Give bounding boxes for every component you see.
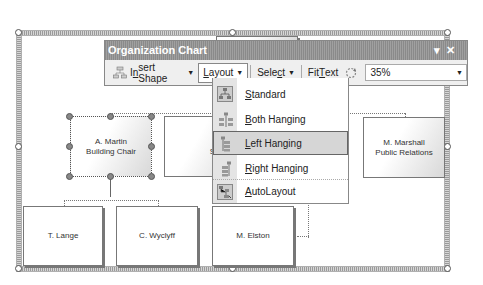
menu-item-both-hanging[interactable]: Both Hanging (213, 107, 348, 131)
both-hanging-icon (217, 111, 233, 127)
insert-shape-button[interactable]: Insert Shape ▼ (109, 63, 198, 83)
menu-accel: S (245, 89, 252, 100)
selection-handle[interactable] (107, 113, 114, 120)
zoom-select[interactable]: 35% ▼ (365, 64, 467, 81)
resize-handle-middle-left[interactable] (15, 143, 22, 150)
menu-label: ight Hanging (252, 163, 308, 174)
resize-handle-top-left[interactable] (15, 29, 22, 36)
resize-handle-middle-right[interactable] (444, 143, 451, 150)
triangle-down-icon[interactable]: ▾ (434, 44, 446, 56)
connector-line (110, 177, 111, 197)
label-part: Fit (308, 67, 319, 78)
connector-line (64, 200, 159, 201)
org-shape-icon (113, 66, 127, 80)
chevron-down-icon: ▼ (288, 69, 295, 76)
selection-handle[interactable] (148, 173, 155, 180)
selection-handle[interactable] (148, 113, 155, 120)
menu-item-standard[interactable]: Standard (213, 82, 348, 106)
resize-handle-top-right[interactable] (444, 29, 451, 36)
node-name: M. Elston (236, 231, 269, 241)
label-part: ext (325, 67, 338, 78)
selection-handle[interactable] (107, 173, 114, 180)
menu-item-autolayout[interactable]: AutoLayout (213, 179, 348, 203)
resize-handle-bottom-left[interactable] (15, 265, 22, 272)
toolbar-title: Organization Chart (108, 44, 207, 56)
menu-accel: B (245, 114, 252, 125)
layout-dropdown-menu: Standard Both Hanging Left Hanging Right… (212, 78, 349, 204)
org-box-t-lange[interactable]: T. Lange (23, 206, 103, 266)
canvas-border-left[interactable] (16, 30, 22, 272)
node-title: Public Relations (375, 148, 432, 158)
resize-handle-top-center[interactable] (229, 29, 236, 36)
menu-label: eft Hanging (251, 138, 302, 149)
menu-item-left-hanging[interactable]: Left Hanging (213, 131, 348, 155)
left-hanging-icon (217, 135, 233, 151)
selection-handle[interactable] (148, 143, 155, 150)
right-hanging-icon (217, 160, 233, 176)
resize-handle-bottom-center[interactable] (229, 265, 236, 272)
connector-line (308, 198, 309, 238)
menu-label: oth Hanging (252, 114, 306, 125)
close-icon[interactable]: ✕ (446, 44, 461, 56)
chevron-down-icon[interactable]: ▼ (456, 69, 463, 76)
menu-label: utoLayout (252, 186, 296, 197)
menu-label: tandard (252, 89, 286, 100)
node-name: C. Wyclyff (139, 231, 175, 241)
menu-accel: R (245, 163, 252, 174)
menu-item-right-hanging[interactable]: Right Hanging (213, 156, 348, 180)
standard-layout-icon (217, 86, 233, 102)
menu-accel: A (245, 186, 252, 197)
node-name: M. Marshall (383, 138, 424, 148)
label-part: sert Shape (138, 62, 179, 84)
autolayout-icon (217, 184, 233, 200)
label-part: Sele (257, 67, 277, 78)
selection-handle[interactable] (66, 113, 73, 120)
org-box-c-wyclyff[interactable]: C. Wyclyff (116, 206, 198, 266)
node-name: T. Lange (48, 231, 79, 241)
resize-handle-bottom-right[interactable] (444, 265, 451, 272)
toolbar-title-bar[interactable]: Organization Chart ▾✕ (105, 41, 467, 60)
label-part: ayout (209, 67, 233, 78)
chevron-down-icon: ▼ (187, 69, 194, 76)
chevron-down-icon: ▼ (236, 69, 243, 76)
connector-line (297, 236, 309, 237)
node-title: Building Chair (86, 147, 136, 157)
zoom-value: 35% (370, 67, 390, 78)
org-box-m-marshall[interactable]: M. Marshall Public Relations (363, 117, 445, 178)
org-box-a-martin[interactable]: A. Martin Building Chair (70, 116, 152, 177)
node-name: A. Martin (95, 137, 127, 147)
selection-handle[interactable] (66, 173, 73, 180)
org-box-m-elston[interactable]: M. Elston (212, 206, 294, 266)
selection-handle[interactable] (66, 143, 73, 150)
label-part: t (282, 67, 285, 78)
